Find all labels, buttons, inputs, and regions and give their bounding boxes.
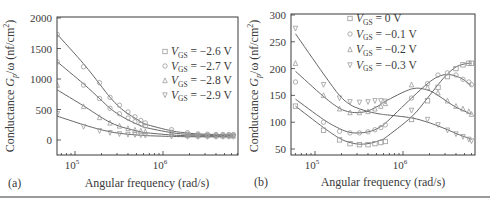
circle-marker — [81, 65, 85, 69]
triangle-down-marker — [469, 139, 473, 144]
panel-b-y-tick-labels: 30025020015010050 — [270, 9, 287, 155]
y-tick-label: 2000 — [30, 12, 53, 24]
panel-b-x-ticks — [295, 151, 471, 155]
panel-b-x-axis-label: Angular frequency (rad/s) — [321, 175, 446, 189]
panel-b-label: (b) — [254, 175, 268, 189]
triangle-up-marker — [126, 126, 130, 131]
legend-label: VGS = −0.2 V — [356, 43, 417, 58]
circle-marker — [321, 120, 325, 124]
square-marker — [425, 99, 429, 103]
legend-item: VGS = −2.8 V — [163, 74, 233, 89]
square-marker — [383, 139, 387, 143]
triangle-down-marker — [293, 26, 297, 31]
circle-marker — [293, 80, 297, 84]
triangle-down-marker — [126, 132, 130, 137]
x-tick-label: 106 — [393, 158, 408, 171]
panel-b-y-axis-label: Conductance Gp/ω (nf/cm2) — [246, 20, 263, 153]
y-tick-label: 250 — [270, 36, 287, 48]
triangle-down-marker — [409, 108, 413, 113]
bottom-divider — [0, 196, 490, 198]
triangle-up-marker — [348, 47, 352, 52]
circle-marker — [163, 64, 167, 68]
triangle-down-marker — [366, 100, 370, 105]
y-tick-label: 1000 — [30, 73, 53, 85]
triangle-down-marker — [373, 99, 377, 104]
triangle-down-marker — [321, 82, 325, 87]
x-tick-label: 106 — [153, 158, 168, 171]
triangle-up-marker — [117, 123, 121, 128]
triangle-down-marker — [461, 134, 465, 139]
y-tick-label: 500 — [36, 104, 53, 116]
panel-a-x-tick-labels: 105106 — [65, 158, 168, 171]
square-marker — [357, 143, 361, 147]
x-tick-label: 105 — [305, 158, 320, 171]
x-tick-label: 105 — [65, 158, 80, 171]
triangle-down-marker — [108, 130, 112, 135]
y-tick-label: 150 — [270, 89, 287, 101]
panel-b-chart: 30025020015010050 105106 VGS = 0 VVGS = … — [246, 9, 475, 189]
y-tick-label: 50 — [275, 143, 287, 155]
square-marker — [348, 16, 352, 20]
y-tick-label: 300 — [270, 9, 287, 21]
circle-marker — [348, 32, 352, 36]
triangle-down-marker — [117, 132, 121, 137]
legend-label: VGS = −0.1 V — [356, 28, 417, 43]
triangle-up-marker — [293, 61, 297, 66]
legend-item: VGS = −2.6 V — [163, 45, 233, 60]
panel-b-x-tick-labels: 105106 — [305, 158, 408, 171]
panel-a-y-axis-label: Conductance Gp/ω (nf/cm2) — [2, 20, 19, 153]
legend-label: VGS = −2.6 V — [171, 45, 232, 60]
y-tick-label: 100 — [270, 116, 287, 128]
triangle-down-marker — [163, 93, 167, 98]
triangle-down-marker — [348, 63, 352, 68]
legend-item: VGS = −2.9 V — [163, 89, 233, 104]
legend-item: VGS = −0.3 V — [348, 59, 418, 74]
panel-a-label: (a) — [8, 176, 21, 190]
square-marker — [163, 49, 167, 53]
legend-label: VGS = −2.9 V — [171, 89, 232, 104]
circle-marker — [337, 129, 341, 133]
legend-item: VGS = −0.2 V — [348, 43, 418, 58]
panel-a-y-tick-labels: 2000150010005000 — [30, 12, 53, 146]
legend-item: VGS = 0 V — [348, 12, 402, 27]
panel-b-legend: VGS = 0 VVGS = −0.1 VVGS = −0.2 VVGS = −… — [348, 12, 418, 73]
triangle-down-marker — [357, 100, 361, 105]
panel-a-legend: VGS = −2.6 VVGS = −2.7 VVGS = −2.8 VVGS … — [163, 45, 233, 103]
legend-item: VGS = −0.1 V — [348, 28, 418, 43]
legend-label: VGS = −0.3 V — [356, 59, 417, 74]
panel-a-x-axis-label: Angular frequency (rad/s) — [85, 176, 210, 190]
legend-label: VGS = −2.8 V — [171, 74, 232, 89]
y-tick-label: 0 — [47, 134, 53, 146]
square-marker — [436, 85, 440, 89]
triangle-down-marker — [337, 96, 341, 101]
triangle-up-marker — [436, 90, 440, 95]
triangle-down-marker — [445, 128, 449, 133]
triangle-down-marker — [454, 132, 458, 137]
triangle-up-marker — [133, 127, 137, 132]
y-tick-label: 1500 — [30, 43, 53, 55]
panel-a-chart: 2000150010005000 105106 VGS = −2.6 VVGS … — [2, 12, 238, 190]
triangle-up-marker — [163, 78, 167, 83]
panel-a-x-ticks — [61, 151, 237, 155]
figure: 2000150010005000 105106 VGS = −2.6 VVGS … — [0, 0, 490, 202]
triangle-up-marker — [139, 128, 143, 133]
legend-label: VGS = 0 V — [356, 12, 402, 27]
square-marker — [379, 140, 383, 144]
legend-item: VGS = −2.7 V — [163, 60, 233, 75]
triangle-up-marker — [409, 82, 413, 87]
y-tick-label: 200 — [270, 63, 287, 75]
legend-label: VGS = −2.7 V — [171, 60, 232, 75]
